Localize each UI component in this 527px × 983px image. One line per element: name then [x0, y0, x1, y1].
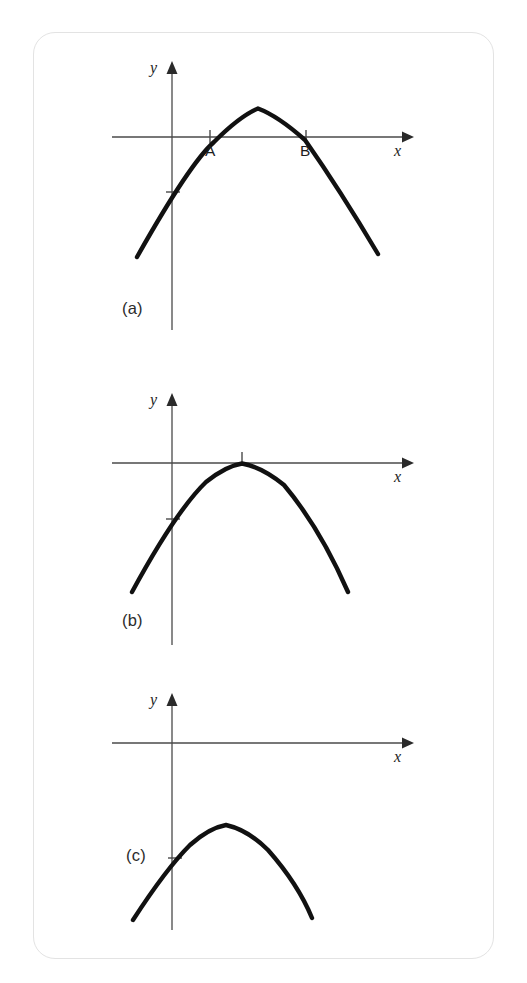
panel-a-y-axis-label: y	[150, 59, 157, 77]
panel-b-y-axis-label: y	[150, 391, 157, 409]
panel-a-graph	[112, 61, 414, 330]
panel-c-y-axis-arrow-icon	[167, 693, 178, 706]
figure-graphics	[0, 0, 527, 983]
panel-b-x-axis-label: x	[394, 468, 401, 486]
panel-a-y-axis-arrow-icon	[167, 61, 178, 74]
panel-c-label: (c)	[126, 846, 146, 865]
panel-c-graph	[112, 693, 414, 930]
figure-root: y x A B (a) y x (b) y x (c)	[0, 0, 527, 983]
panel-b-parabola-curve	[132, 464, 348, 593]
panel-a-point-label-b: B	[300, 142, 310, 160]
panel-c-x-axis-arrow-icon	[402, 738, 414, 749]
panel-a-parabola-curve	[137, 109, 378, 258]
panel-a-point-label-a: A	[205, 142, 215, 160]
panel-a-label: (a)	[122, 299, 143, 318]
panel-a-x-axis-arrow-icon	[402, 132, 414, 143]
panel-b-y-axis-arrow-icon	[167, 393, 178, 406]
panel-c-parabola-curve	[133, 825, 312, 920]
panel-b-label: (b)	[122, 611, 143, 630]
panel-c-x-axis-label: x	[394, 748, 401, 766]
panel-a-x-axis-label: x	[394, 142, 401, 160]
panel-b-graph	[112, 393, 414, 645]
panel-c-y-axis-label: y	[150, 691, 157, 709]
panel-b-x-axis-arrow-icon	[402, 458, 414, 469]
